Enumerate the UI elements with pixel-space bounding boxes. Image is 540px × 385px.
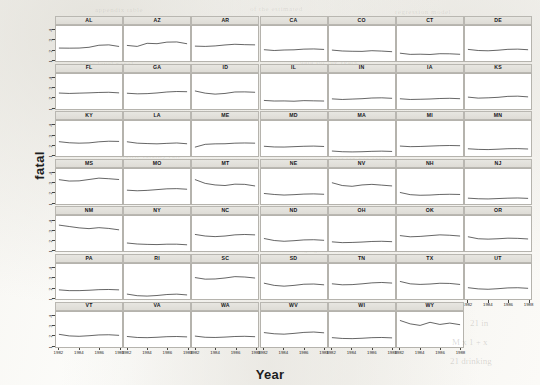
panel-vt[interactable]: VT12341982198419861988 (55, 302, 123, 348)
y-tick-label: 4 (49, 77, 53, 79)
panel-ma[interactable]: MA (328, 111, 396, 157)
panel-strip: AZ (123, 16, 191, 25)
panel-ct[interactable]: CT (396, 16, 464, 62)
panel-sc[interactable]: SC (191, 254, 259, 300)
series-line-md (264, 146, 323, 147)
panel-plot-area (396, 25, 464, 62)
panel-plot-area (260, 311, 328, 348)
panel-nj[interactable]: NJ (464, 159, 532, 205)
panel-ks[interactable]: KS (464, 64, 532, 110)
panel-ms[interactable]: MS1234 (55, 159, 123, 205)
panel-tx[interactable]: TX (396, 254, 464, 300)
panel-wv[interactable]: WV1982198419861988 (260, 302, 328, 348)
panel-strip: MA (328, 111, 396, 120)
panel-plot-area (260, 73, 328, 110)
panel-nv[interactable]: NV (328, 159, 396, 205)
panel-oh[interactable]: OH (328, 206, 396, 252)
panel-sd[interactable]: SD (260, 254, 328, 300)
panel-strip-label: VA (154, 303, 161, 308)
panel-ky[interactable]: KY1234 (55, 111, 123, 157)
panel-nm[interactable]: NM1234 (55, 206, 123, 252)
panel-tn[interactable]: TN (328, 254, 396, 300)
panel-mt[interactable]: MT (191, 159, 259, 205)
panel-mi[interactable]: MI (396, 111, 464, 157)
panel-strip: CO (328, 16, 396, 25)
y-tick-label: 3 (49, 39, 53, 41)
panel-strip: TX (396, 254, 464, 263)
panel-strip-label: CT (426, 18, 433, 23)
panel-la[interactable]: LA (123, 111, 191, 157)
y-tick-label: 3 (49, 182, 53, 184)
panel-strip: ID (191, 64, 259, 73)
panel-md[interactable]: MD (260, 111, 328, 157)
panel-strip-label: MS (85, 161, 93, 166)
x-tick-label: 1982 (258, 351, 268, 355)
panel-ut[interactable]: UT1982198419861988 (464, 254, 532, 300)
panel-id[interactable]: ID (191, 64, 259, 110)
panel-strip: MI (396, 111, 464, 120)
x-tick-label: 1986 (367, 351, 377, 355)
panel-ia[interactable]: IA (396, 64, 464, 110)
x-tick-label: 1984 (210, 351, 220, 355)
series-line-al (59, 45, 118, 48)
series-line-pa (59, 289, 118, 290)
panel-nd[interactable]: ND (260, 206, 328, 252)
panel-mn[interactable]: MN (464, 111, 532, 157)
panel-me[interactable]: ME (191, 111, 259, 157)
panel-ca[interactable]: CA (260, 16, 328, 62)
panel-de[interactable]: DE (464, 16, 532, 62)
panel-nc[interactable]: NC (191, 206, 259, 252)
panel-il[interactable]: IL (260, 64, 328, 110)
panel-ne[interactable]: NE (260, 159, 328, 205)
panel-ok[interactable]: OK (396, 206, 464, 252)
panel-strip: SD (260, 254, 328, 263)
panel-in[interactable]: IN (328, 64, 396, 110)
trellis-plot: fatal Year AL1234AZARCACOCTDEFL1234GAIDI… (0, 0, 540, 385)
panel-strip-label: MT (221, 161, 229, 166)
y-tick-label: 1 (49, 250, 53, 252)
panel-plot-area (260, 263, 328, 300)
panel-strip-label: OK (426, 208, 434, 213)
panel-ny[interactable]: NY (123, 206, 191, 252)
series-line-ny (127, 243, 186, 245)
panel-co[interactable]: CO (328, 16, 396, 62)
panel-fl[interactable]: FL1234 (55, 64, 123, 110)
panel-strip-label: WA (221, 303, 230, 308)
panel-strip: OH (328, 206, 396, 215)
series-line-wy (400, 320, 459, 325)
panel-strip: TN (328, 254, 396, 263)
panel-ar[interactable]: AR (191, 16, 259, 62)
panel-strip: SC (191, 254, 259, 263)
panel-plot-area (260, 120, 328, 157)
panel-pa[interactable]: PA1234 (55, 254, 123, 300)
panel-plot-area (464, 168, 532, 205)
series-line-id (196, 91, 255, 94)
panel-wy[interactable]: WY1982198419861988 (396, 302, 464, 348)
series-line-nh (400, 192, 459, 195)
panel-plot-area (191, 25, 259, 62)
panel-va[interactable]: VA1982198419861988 (123, 302, 191, 348)
series-line-tx (400, 282, 459, 285)
panel-al[interactable]: AL1234 (55, 16, 123, 62)
panel-az[interactable]: AZ (123, 16, 191, 62)
panel-strip-label: PA (85, 256, 92, 261)
panel-wa[interactable]: WA1982198419861988 (191, 302, 259, 348)
panel-ga[interactable]: GA (123, 64, 191, 110)
panel-ri[interactable]: RI (123, 254, 191, 300)
panel-mo[interactable]: MO (123, 159, 191, 205)
y-axis: 1234 (40, 120, 55, 157)
y-axis: 1234 (40, 215, 55, 252)
y-axis: 1234 (40, 25, 55, 62)
panel-plot-area (55, 263, 123, 300)
panel-row: FL1234GAIDILINIAKS (55, 64, 532, 110)
panel-plot-area (55, 311, 123, 348)
panel-wi[interactable]: WI1982198419861988 (328, 302, 396, 348)
series-line-ma (332, 151, 391, 152)
x-axis: 1982198419861988 (191, 348, 259, 360)
panel-strip: MO (123, 159, 191, 168)
panel-strip-label: GA (153, 65, 161, 70)
panel-strip: OK (396, 206, 464, 215)
panel-or[interactable]: OR (464, 206, 532, 252)
panel-plot-area (123, 168, 191, 205)
panel-nh[interactable]: NH (396, 159, 464, 205)
